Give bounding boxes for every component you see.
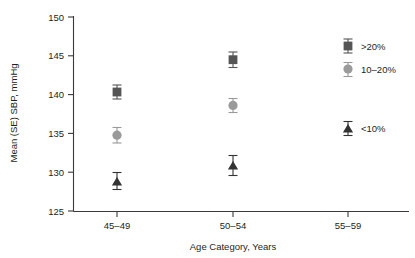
series-10to20-group [112,63,352,144]
datapoint-10to20-45-49 [112,128,121,144]
y-axis-label: Mean (SE) SBP, mmHg [8,63,19,162]
triangle-marker [112,177,122,186]
square-marker [229,55,238,64]
y-tick-label-135: 135 [48,128,64,139]
y-tick-label-150: 150 [48,12,64,23]
datapoint-lt10-50-54 [228,156,238,176]
y-tick-label-140: 140 [48,89,64,100]
y-tick-label-145: 145 [48,50,64,61]
x-tick-label-2: 55–59 [335,220,361,231]
datapoint-lt10-45-49 [112,173,122,190]
legend-label-gt20: >20% [361,41,386,52]
datapoint-gt20-50-54 [229,52,238,68]
legend-label-10to20: 10–20% [361,64,396,75]
datapoint-10to20-55-59 [343,63,352,77]
datapoint-10to20-50-54 [228,99,237,113]
legend-label-lt10: <10% [361,123,386,134]
circle-marker [343,64,352,73]
datapoint-gt20-45-49 [113,85,122,99]
x-tick-label-0: 45–49 [104,220,130,231]
y-tick-label-125: 125 [48,206,64,217]
datapoint-lt10-55-59 [343,122,353,136]
chart-figure: 150 145 140 135 130 125 45–49 50–54 55–5… [0,0,415,258]
datapoint-gt20-55-59 [344,39,353,53]
x-axis-label: Age Category, Years [190,241,277,252]
circle-marker [228,101,237,110]
series-lt10-group [112,122,353,190]
square-marker [344,42,353,51]
y-tick-label-130: 130 [48,167,64,178]
triangle-marker [228,161,238,170]
x-tick-label-1: 50–54 [220,220,246,231]
series-gt20-group [113,39,353,99]
chart-svg: 150 145 140 135 130 125 45–49 50–54 55–5… [0,0,415,258]
circle-marker [112,131,121,140]
square-marker [113,88,122,97]
triangle-marker [343,124,353,133]
